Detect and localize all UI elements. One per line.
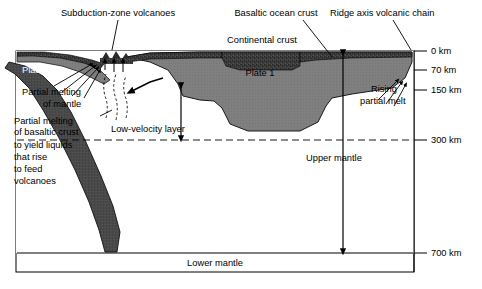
diagram-canvas: Subduction-zone volcanoes Basaltic ocean… [0,0,482,289]
depth-axis [414,51,427,272]
label-low-velocity-layer: Low-velocity layer [111,124,185,134]
label-rising-partial-melt-line1: Rising [371,84,397,94]
depth-tick-label-150: 150 km [431,85,462,95]
label-plate-1: Plate 1 [246,68,275,78]
label-partial-melting-mantle-line1: Partial melting [22,87,81,97]
label-partial-melting-mantle-line2: of mantle [43,99,81,109]
label-lower-mantle: Lower mantle [187,258,243,268]
label-partial-melting-crust-line2: of basaltic crust [14,127,79,137]
depth-tick-label-0: 0 km [431,46,451,56]
label-partial-melting-crust-line6: volcanoes [14,176,56,186]
label-partial-melting-crust-line5: to feed [14,164,42,174]
cross-section-svg: Subduction-zone volcanoes Basaltic ocean… [0,0,482,289]
depth-tick-label-700: 700 km [431,248,462,258]
depth-tick-label-300: 300 km [431,135,462,145]
label-continental-crust: Continental crust [227,35,297,45]
label-subduction-zone-volcanoes: Subduction-zone volcanoes [61,8,176,18]
label-partial-melting-crust-line4: that rise [14,152,47,162]
label-plate-2: Plate 2 [22,65,51,75]
label-ridge-axis-volcanic-chain: Ridge axis volcanic chain [330,8,434,18]
label-basaltic-ocean-crust: Basaltic ocean crust [234,8,318,18]
label-partial-melting-crust-line1: Partial melting [14,116,73,126]
label-rising-partial-melt-line2: partial melt [360,96,406,106]
label-partial-melting-crust-line3: to yield liquids [14,140,73,150]
depth-tick-label-70: 70 km [431,65,457,75]
label-upper-mantle: Upper mantle [306,153,362,163]
